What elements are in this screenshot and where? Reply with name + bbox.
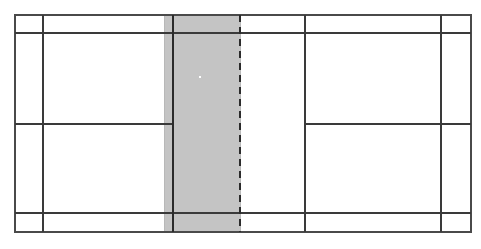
court-diagram-svg — [0, 0, 481, 249]
shaded-zone-band — [164, 15, 240, 232]
court-diagram-stage — [0, 0, 481, 249]
shuttle-marker-dot — [198, 75, 201, 78]
